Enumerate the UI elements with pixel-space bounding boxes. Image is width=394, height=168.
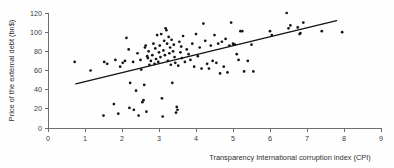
data-point — [158, 51, 161, 54]
data-point — [180, 45, 183, 48]
data-point — [224, 38, 227, 41]
data-point — [159, 56, 162, 59]
data-point — [287, 27, 290, 30]
data-point — [73, 61, 76, 64]
y-tick-label: 40 — [34, 85, 42, 94]
data-point — [200, 67, 203, 70]
data-point — [171, 82, 174, 85]
data-point — [237, 59, 240, 62]
data-point — [142, 99, 145, 102]
data-point — [170, 38, 173, 41]
y-tick-label: 60 — [34, 66, 42, 75]
data-point — [221, 40, 224, 43]
data-point — [152, 42, 155, 45]
data-point — [102, 114, 105, 117]
data-point — [189, 59, 192, 62]
data-point — [164, 54, 167, 57]
data-point — [246, 60, 249, 63]
y-tick-label: 120 — [30, 9, 42, 18]
data-point — [121, 61, 124, 64]
data-point — [206, 62, 209, 65]
data-point — [213, 34, 216, 37]
data-point — [219, 72, 222, 75]
data-point — [125, 37, 128, 40]
data-point — [289, 24, 292, 27]
data-point — [241, 30, 244, 33]
data-point — [215, 61, 218, 64]
data-point — [243, 70, 246, 73]
data-point — [177, 64, 180, 67]
x-tick-label: 1 — [83, 134, 87, 143]
data-point — [178, 40, 181, 43]
data-point — [217, 42, 220, 45]
y-tick-label: 100 — [30, 28, 42, 37]
data-point — [113, 103, 116, 106]
data-point — [211, 60, 214, 63]
data-point — [202, 22, 205, 25]
data-point — [132, 108, 135, 111]
data-point — [147, 57, 150, 60]
data-point — [89, 69, 92, 72]
y-tick-label: 0 — [38, 124, 42, 133]
data-point — [163, 39, 166, 42]
y-axis-title: Price of the external debt (bn$) — [7, 20, 16, 121]
x-tick-label: 9 — [379, 134, 383, 143]
data-point — [117, 112, 120, 115]
data-point — [187, 53, 190, 56]
data-point — [143, 84, 146, 87]
data-point — [128, 107, 131, 110]
data-point — [106, 62, 109, 65]
data-point — [179, 51, 182, 54]
data-point — [158, 44, 161, 47]
x-axis-ticks: 0123456789 — [46, 128, 383, 143]
x-tick-label: 6 — [268, 134, 272, 143]
data-point — [191, 42, 194, 45]
data-point — [208, 67, 211, 70]
data-point — [197, 55, 200, 58]
data-point — [173, 56, 176, 59]
data-point — [145, 110, 148, 113]
data-point — [285, 12, 288, 15]
data-point — [175, 111, 178, 114]
data-point — [252, 70, 255, 73]
data-point — [235, 53, 238, 56]
x-tick-label: 7 — [305, 134, 309, 143]
data-point — [204, 39, 207, 42]
data-point — [230, 21, 233, 24]
x-tick-label: 5 — [231, 134, 235, 143]
data-point — [198, 46, 201, 49]
x-axis-title: Transparency International corruption in… — [209, 153, 371, 162]
data-point — [155, 58, 158, 61]
data-point — [184, 61, 187, 64]
y-tick-label: 80 — [34, 47, 42, 56]
data-point — [167, 36, 170, 39]
data-point — [136, 52, 139, 55]
data-point — [185, 48, 188, 51]
data-point — [172, 50, 175, 53]
data-point — [135, 89, 138, 92]
data-point — [209, 44, 212, 47]
data-point — [132, 61, 135, 64]
data-point — [129, 82, 132, 85]
data-point — [103, 61, 106, 64]
chart-canvas: 020406080100120 0123456789 Price of the … — [0, 0, 394, 168]
data-point — [195, 33, 198, 36]
data-point — [169, 46, 172, 49]
trend-line — [76, 21, 337, 84]
data-point — [166, 42, 169, 45]
x-tick-label: 8 — [342, 134, 346, 143]
data-point — [169, 63, 172, 66]
data-point — [144, 44, 147, 47]
data-point — [156, 34, 159, 37]
data-point — [175, 106, 178, 109]
data-point — [320, 30, 323, 33]
data-point — [176, 108, 179, 111]
data-point — [150, 60, 153, 63]
data-point — [161, 115, 164, 118]
data-point — [226, 71, 229, 74]
data-point — [296, 26, 299, 29]
data-point — [124, 60, 127, 63]
data-point — [165, 29, 168, 32]
data-point — [172, 43, 175, 46]
data-point — [299, 32, 302, 35]
